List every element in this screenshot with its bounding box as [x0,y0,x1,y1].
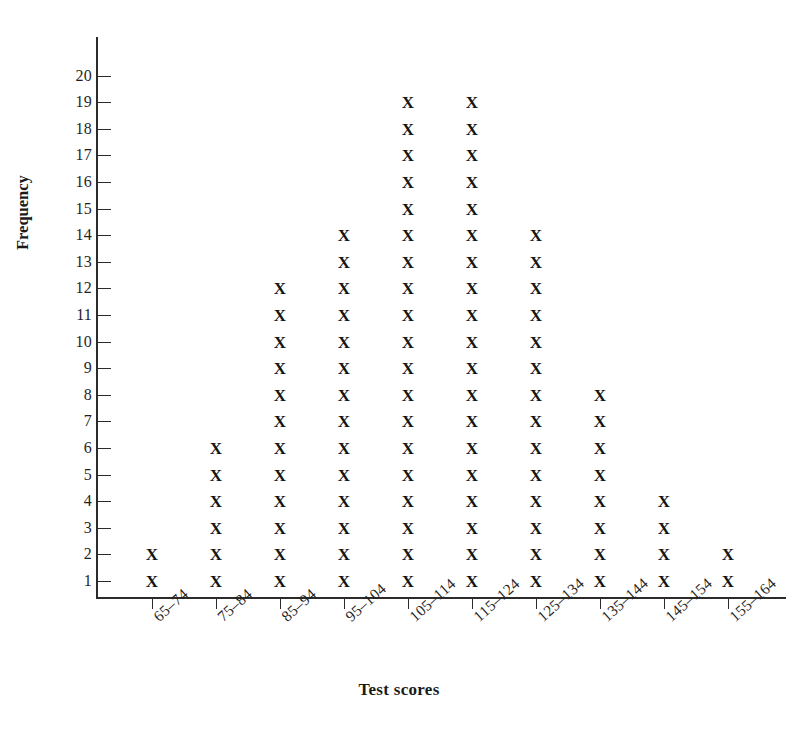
data-marker: X [334,387,354,404]
y-axis-tick-label-text: 5 [58,467,92,483]
y-axis-tick-label: 12 [52,280,92,296]
data-marker: X [334,334,354,351]
data-marker: X [398,493,418,510]
data-marker: X [590,387,610,404]
y-axis-tick-label: 20 [52,68,92,84]
y-axis-tick [98,102,111,103]
data-marker: X [462,467,482,484]
data-marker: X [270,440,290,457]
y-axis-title: Frequency [14,175,32,250]
data-marker: X [462,201,482,218]
y-axis-tick-label: 4 [52,493,92,509]
data-marker: X [398,121,418,138]
data-marker: X [398,573,418,590]
data-marker: X [462,147,482,164]
data-marker: X [526,467,546,484]
data-marker: X [718,573,738,590]
y-axis-tick [98,209,111,210]
y-axis-tick-label-text: 2 [58,546,92,562]
data-marker: X [206,493,226,510]
data-marker: X [462,546,482,563]
y-axis-tick [98,368,111,369]
y-axis-tick-label-text: 18 [58,121,92,137]
data-marker: X [462,280,482,297]
data-marker: X [654,546,674,563]
data-marker: X [270,573,290,590]
data-marker: X [398,174,418,191]
y-axis-tick [98,182,111,183]
data-marker: X [270,360,290,377]
y-axis-tick-label: 16 [52,174,92,190]
data-marker: X [398,546,418,563]
data-marker: X [398,467,418,484]
y-axis-tick-label: 8 [52,387,92,403]
data-marker: X [398,360,418,377]
data-marker: X [270,280,290,297]
x-axis-tick [344,598,345,609]
data-marker: X [526,387,546,404]
y-axis-tick-label: 13 [52,254,92,270]
data-marker: X [270,387,290,404]
data-marker: X [590,440,610,457]
data-marker: X [398,201,418,218]
data-marker: X [398,440,418,457]
data-marker: X [334,413,354,430]
y-axis-tick-label-text: 15 [58,201,92,217]
data-marker: X [462,307,482,324]
y-axis-tick-label-text: 7 [58,413,92,429]
y-axis-tick-label: 9 [52,360,92,376]
y-axis-tick-label: 2 [52,546,92,562]
y-axis-tick-label: 3 [52,520,92,536]
data-marker: X [334,254,354,271]
y-axis-tick-label-text: 13 [58,254,92,270]
data-marker: X [462,387,482,404]
data-marker: X [334,467,354,484]
data-marker: X [206,467,226,484]
data-marker: X [462,121,482,138]
data-marker: X [526,280,546,297]
data-marker: X [590,573,610,590]
y-axis-tick [98,288,111,289]
data-marker: X [398,254,418,271]
data-marker: X [462,94,482,111]
data-marker: X [654,520,674,537]
data-marker: X [270,520,290,537]
data-marker: X [654,493,674,510]
data-marker: X [526,413,546,430]
data-marker: X [334,520,354,537]
data-marker: X [526,493,546,510]
y-axis-tick [98,342,111,343]
x-axis-title: Test scores [0,680,798,699]
data-marker: X [142,573,162,590]
y-axis-tick-label-text: 8 [58,387,92,403]
x-axis-tick [216,598,217,609]
data-marker: X [526,360,546,377]
y-axis-tick-label: 15 [52,201,92,217]
y-axis-tick-label-text: 10 [58,334,92,350]
x-axis-tick [280,598,281,609]
y-axis-tick [98,155,111,156]
data-marker: X [526,227,546,244]
y-axis-tick [98,475,111,476]
y-axis-tick-label: 5 [52,467,92,483]
data-marker: X [462,334,482,351]
data-marker: X [270,307,290,324]
data-marker: X [398,387,418,404]
y-axis-tick-label: 19 [52,94,92,110]
y-axis-tick-label: 17 [52,147,92,163]
data-marker: X [462,254,482,271]
data-marker: X [398,94,418,111]
y-axis-tick [98,129,111,130]
y-axis-tick-label: 18 [52,121,92,137]
y-axis-tick [98,395,111,396]
y-axis-tick [98,235,111,236]
x-axis-tick-label: 85–94 [278,585,319,625]
data-marker: X [334,227,354,244]
y-axis-tick-label-text: 16 [58,174,92,190]
data-marker: X [142,546,162,563]
data-marker: X [654,573,674,590]
data-marker: X [398,280,418,297]
data-marker: X [526,573,546,590]
data-marker: X [270,493,290,510]
data-marker: X [334,573,354,590]
